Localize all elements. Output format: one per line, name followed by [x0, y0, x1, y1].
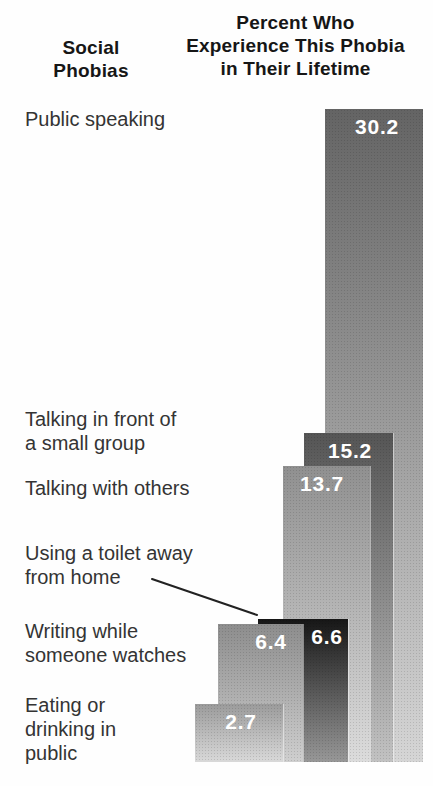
- category-label-line: Talking with others: [25, 476, 190, 500]
- column-header-social-phobias: Social Phobias: [16, 36, 166, 82]
- bar-value-eating-drinking-public: 2.7: [225, 710, 257, 734]
- header-line: Social: [16, 36, 166, 59]
- header-line: Phobias: [16, 59, 166, 82]
- category-label-line: public: [25, 741, 116, 765]
- figure-social-phobias-chart: Social Phobias Percent Who Experience Th…: [0, 0, 433, 786]
- category-label-line: Eating or: [25, 693, 116, 717]
- header-line: Experience This Phobia: [158, 34, 433, 57]
- category-label-line: Writing while: [25, 619, 186, 643]
- category-label-line: Talking in front of: [25, 407, 176, 431]
- header-line: Percent Who: [158, 11, 433, 34]
- bar-value-talking-with-others: 13.7: [300, 472, 344, 496]
- column-header-percent-lifetime: Percent Who Experience This Phobia in Th…: [158, 11, 433, 80]
- category-label-talking-with-others: Talking with others: [25, 476, 190, 500]
- category-label-line: a small group: [25, 431, 176, 455]
- category-label-toilet-away-from-home: Using a toilet awayfrom home: [25, 541, 193, 589]
- bar-value-writing-while-watched: 6.4: [255, 630, 287, 654]
- bar-eating-drinking-public: 2.7: [195, 704, 283, 762]
- category-label-line: from home: [25, 565, 193, 589]
- category-label-line: Public speaking: [25, 107, 165, 131]
- category-label-public-speaking: Public speaking: [25, 107, 165, 131]
- bar-value-toilet-away-from-home: 6.6: [311, 625, 343, 649]
- category-label-eating-drinking-public: Eating ordrinking inpublic: [25, 693, 116, 765]
- category-label-writing-while-watched: Writing whilesomeone watches: [25, 619, 186, 667]
- category-label-line: someone watches: [25, 643, 186, 667]
- header-line: in Their Lifetime: [158, 57, 433, 80]
- category-label-line: drinking in: [25, 717, 116, 741]
- bar-value-public-speaking: 30.2: [355, 115, 399, 139]
- bar-value-talking-small-group: 15.2: [328, 439, 372, 463]
- category-label-line: Using a toilet away: [25, 541, 193, 565]
- category-label-talking-small-group: Talking in front ofa small group: [25, 407, 176, 455]
